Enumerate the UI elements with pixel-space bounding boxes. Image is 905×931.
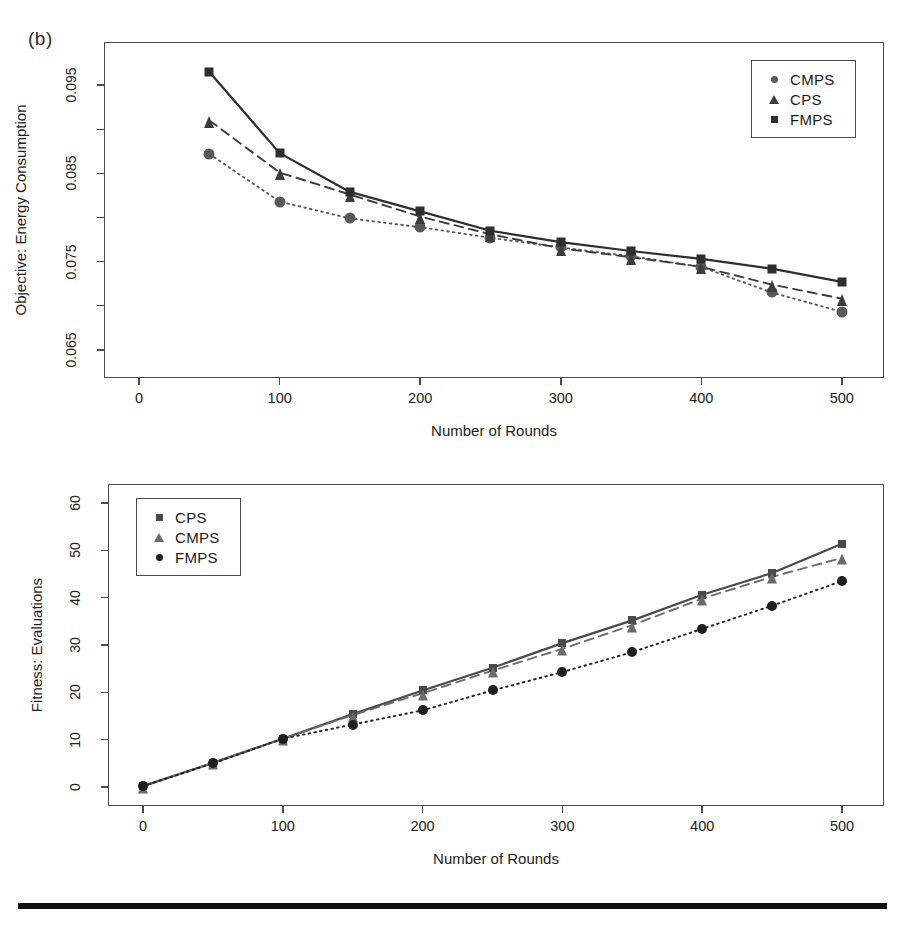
datapoint-fmps-100: [278, 734, 288, 744]
x-tick: [701, 806, 703, 813]
datapoint-fmps-300: [557, 667, 567, 677]
datapoint-fmps-250: [488, 685, 498, 695]
legend-item-label: FMPS: [175, 549, 218, 566]
legend-item-fmps[interactable]: FMPS: [152, 547, 218, 567]
datapoint-cmps-300: [557, 645, 567, 656]
y-tick: [101, 786, 108, 788]
x-tick: [562, 806, 564, 813]
legend-marker-circle-icon: [152, 554, 166, 561]
datapoint-cmps-500: [837, 554, 847, 565]
y-tick: [101, 644, 108, 646]
y-tick-label: 60: [66, 473, 84, 533]
y-axis-label-bottom: Fitness: Evaluations: [27, 454, 47, 836]
legend-marker-square-icon: [152, 514, 166, 521]
legend-item-label: CMPS: [175, 529, 220, 546]
x-tick: [282, 806, 284, 813]
datapoint-fmps-450: [767, 601, 777, 611]
datapoint-cmps-250: [488, 667, 498, 678]
y-tick: [101, 692, 108, 694]
datapoint-cmps-350: [627, 621, 637, 632]
legend-item-cmps[interactable]: CMPS: [152, 527, 220, 547]
y-tick: [101, 739, 108, 741]
y-tick: [101, 597, 108, 599]
datapoint-fmps-50: [208, 758, 218, 768]
plot-lines-bottom: [0, 0, 905, 931]
figure-root: (b) 01002003004005000.0650.0750.0850.095…: [0, 0, 905, 931]
datapoint-fmps-0: [138, 781, 148, 791]
horizontal-rule: [18, 903, 887, 909]
x-tick-label: 300: [532, 818, 592, 834]
datapoint-cps-500: [838, 540, 846, 548]
x-tick-label: 500: [812, 818, 872, 834]
datapoint-cmps-450: [767, 573, 777, 584]
x-tick-label: 200: [393, 818, 453, 834]
x-tick-label: 400: [672, 818, 732, 834]
x-tick: [142, 806, 144, 813]
x-axis-label-bottom: Number of Rounds: [8, 850, 905, 867]
x-tick-label: 0: [113, 818, 173, 834]
datapoint-cmps-200: [418, 689, 428, 700]
y-tick: [101, 550, 108, 552]
legend-item-cps[interactable]: CPS: [152, 507, 207, 527]
datapoint-cmps-400: [697, 595, 707, 606]
x-tick-label: 100: [253, 818, 313, 834]
legend-item-label: CPS: [175, 509, 207, 526]
y-tick: [101, 502, 108, 504]
x-tick: [841, 806, 843, 813]
datapoint-fmps-150: [348, 720, 358, 730]
datapoint-fmps-350: [627, 647, 637, 657]
legend-marker-triangle-icon: [152, 533, 166, 542]
datapoint-fmps-400: [697, 624, 707, 634]
datapoint-fmps-500: [837, 576, 847, 586]
series-line-fmps: [143, 581, 842, 786]
datapoint-fmps-200: [418, 705, 428, 715]
x-tick: [422, 806, 424, 813]
